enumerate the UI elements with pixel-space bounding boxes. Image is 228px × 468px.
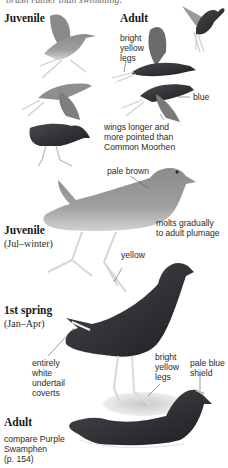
juvenile-subheading: (Jul–winter) [4, 238, 53, 249]
field-guide-page: brush rather than swimming. Juvenile Adu… [0, 0, 228, 468]
adult-flight-heading: Adult [120, 12, 148, 24]
juvenile-flight-heading: Juvenile [4, 12, 45, 24]
annotation-bright-yellow-legs: bright yellow legs [155, 352, 179, 382]
first-spring-subheading: (Jan–Apr) [4, 318, 45, 329]
juvenile-flying-lower [22, 84, 92, 120]
annotation-yellow: yellow [121, 250, 145, 260]
adult-compare-note: compare Purple Swamphen (p. 154) [4, 434, 65, 464]
first-spring-standing [66, 263, 194, 416]
adult-heading: Adult [4, 416, 32, 428]
juvenile-heading: Juvenile [4, 224, 45, 236]
juvenile-standing-small [29, 124, 90, 166]
annotation-blue: blue [193, 92, 209, 102]
annotation-undertail-coverts: entirely white undertail coverts [32, 358, 65, 398]
annotation-molts: molts gradually to adult plumage [156, 218, 220, 238]
annotation-pale-blue-shield: pale blue shield [190, 358, 225, 378]
annotation-bright-yellow-legs-flight: bright yellow legs [120, 33, 144, 63]
adult-flying-top-right [182, 6, 225, 52]
annotation-wings: wings longer and more pointed than Commo… [104, 122, 175, 152]
adult-flying-lower [122, 84, 194, 122]
cut-off-intro-text: brush rather than swimming. [6, 0, 122, 5]
juvenile-flying-upper [40, 14, 96, 78]
first-spring-heading: 1st spring [4, 304, 52, 316]
annotation-pale-brown: pale brown [107, 166, 149, 176]
